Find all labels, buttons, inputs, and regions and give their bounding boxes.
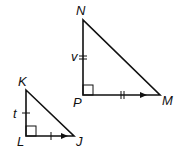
arrow-lj-icon: [61, 133, 68, 139]
side-label-t: t: [13, 106, 18, 121]
arrow-pm-icon: [140, 92, 147, 98]
vertex-label-k: K: [18, 74, 28, 89]
right-angle-marker-l: [26, 126, 36, 136]
right-angle-marker-p: [83, 85, 93, 95]
similar-triangles-diagram: N v P M K t L J: [0, 0, 179, 151]
vertex-label-n: N: [76, 3, 86, 18]
triangle-klj: K t L J: [13, 74, 83, 149]
vertex-label-l: L: [17, 134, 24, 149]
triangle-klj-outline: [26, 90, 74, 136]
side-label-v: v: [71, 49, 79, 64]
triangle-npm-outline: [83, 20, 160, 95]
vertex-label-p: P: [73, 95, 82, 110]
vertex-label-j: J: [75, 134, 83, 149]
triangle-npm: N v P M: [71, 3, 173, 110]
vertex-label-m: M: [162, 93, 173, 108]
